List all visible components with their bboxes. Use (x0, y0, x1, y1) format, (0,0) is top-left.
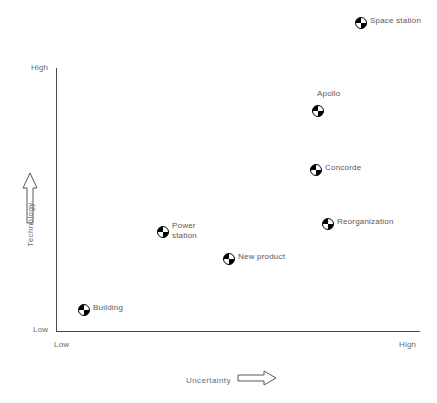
y-axis-title-group: Technology (14, 172, 46, 282)
y-axis-title: Technology (26, 189, 35, 261)
scatter-chart: High Low Low High Technology Uncertainty… (0, 0, 437, 403)
data-point-label: Reorganization (337, 217, 394, 227)
data-point-label: Power station (172, 221, 197, 241)
quadrant-pie-icon (322, 216, 334, 234)
data-point-label: Concorde (325, 163, 361, 173)
quadrant-pie-icon (223, 251, 235, 269)
data-point-label: New product (238, 252, 285, 262)
quadrant-pie-icon (78, 302, 90, 320)
x-axis-tick-low: Low (54, 340, 69, 349)
quadrant-pie-icon (312, 103, 324, 121)
quadrant-pie-icon (310, 162, 322, 180)
data-point-label: Space station (370, 16, 421, 26)
data-point-label: Building (93, 303, 123, 313)
x-axis-title: Uncertainty (186, 376, 231, 385)
y-axis-tick-low: Low (33, 325, 48, 334)
right-arrow-icon (237, 370, 277, 390)
quadrant-pie-icon (157, 224, 169, 242)
quadrant-pie-icon (355, 15, 367, 33)
x-axis-tick-high: High (399, 340, 416, 349)
data-point-label: Apollo (317, 89, 340, 99)
y-axis-tick-high: High (31, 63, 48, 72)
x-axis-line (56, 331, 420, 332)
x-axis-title-group: Uncertainty (186, 372, 277, 388)
y-axis-line (56, 68, 57, 332)
